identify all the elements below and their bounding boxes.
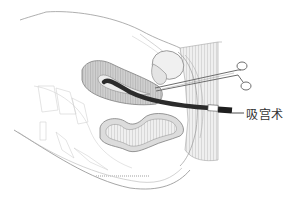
procedure-label: 吸宫术	[246, 105, 284, 122]
cannula-handle	[218, 107, 232, 114]
cannula-white-band	[208, 105, 218, 112]
abdominal-wall	[20, 12, 180, 48]
illustration-canvas: 吸宫术	[0, 0, 294, 206]
pelvic-anatomy-illustration	[0, 0, 294, 206]
